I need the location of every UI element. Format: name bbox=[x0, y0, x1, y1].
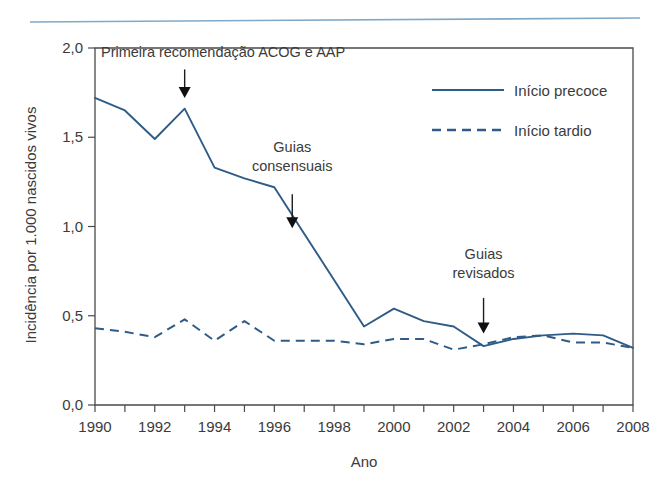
legend-layer: Início precoceInício tardio bbox=[432, 82, 607, 139]
y-tick-label: 0,5 bbox=[62, 307, 83, 324]
annotation-guias-consensuais: Guiasconsensuais bbox=[252, 139, 333, 174]
x-tick-label: 1994 bbox=[198, 418, 231, 435]
x-tick-label: 1990 bbox=[78, 418, 111, 435]
legend-label-inicio-precoce: Início precoce bbox=[514, 82, 607, 99]
y-axis-ticks: 0,00,51,01,52,0 bbox=[62, 39, 95, 413]
line-chart: 0,00,51,01,52,0 199019921994199619982000… bbox=[0, 0, 658, 493]
annotation-guias-revisados: Guiasrevisados bbox=[453, 246, 515, 281]
x-axis-title: Ano bbox=[351, 453, 378, 470]
x-tick-label: 1992 bbox=[138, 418, 171, 435]
plot-frame bbox=[95, 48, 633, 405]
x-tick-label: 1998 bbox=[317, 418, 350, 435]
x-tick-label: 1996 bbox=[258, 418, 291, 435]
y-tick-label: 2,0 bbox=[62, 39, 83, 56]
x-tick-label: 2006 bbox=[557, 418, 590, 435]
y-axis-title: Incidência por 1.000 nascidos vivos bbox=[22, 107, 39, 344]
x-tick-label: 2002 bbox=[437, 418, 470, 435]
annotation-layer: Primeira recomendação ACOG e AAPGuiascon… bbox=[101, 44, 515, 334]
annotation-primeira-recomendacao: Primeira recomendação ACOG e AAP bbox=[101, 44, 345, 60]
legend-label-inicio-tardio: Início tardio bbox=[514, 122, 592, 139]
x-tick-label: 2008 bbox=[616, 418, 649, 435]
decorative-top-rule bbox=[30, 18, 640, 22]
plot-border bbox=[95, 48, 633, 405]
y-tick-label: 1,5 bbox=[62, 128, 83, 145]
y-tick-label: 0,0 bbox=[62, 396, 83, 413]
annotation-arrow-head-primeira-recomendacao bbox=[179, 87, 191, 98]
x-tick-label: 2004 bbox=[497, 418, 530, 435]
annotation-arrow-head-guias-revisados bbox=[478, 323, 490, 334]
y-tick-label: 1,0 bbox=[62, 218, 83, 235]
x-axis-ticks: 1990199219941996199820002002200420062008 bbox=[78, 405, 649, 435]
figure-root: 0,00,51,01,52,0 199019921994199619982000… bbox=[0, 0, 658, 493]
x-tick-label: 2000 bbox=[377, 418, 410, 435]
